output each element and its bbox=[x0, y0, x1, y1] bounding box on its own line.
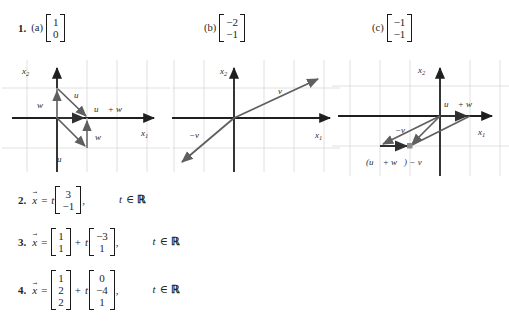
matrix-entry: 1 bbox=[58, 272, 64, 284]
vector-arrows bbox=[182, 79, 318, 162]
matrix-entry: 0 bbox=[53, 28, 59, 40]
equation-4-point-matrix: 1 2 2 bbox=[51, 270, 71, 310]
problem-1-row: 1. (a) 1 0 (b) −2 −1 bbox=[0, 0, 509, 56]
problem-1-item-b: (b) −2 −1 bbox=[204, 14, 245, 42]
matrix-entry: 1 bbox=[99, 296, 105, 308]
bracket-right bbox=[110, 228, 115, 256]
answer-page: 1. (a) 1 0 (b) −2 −1 bbox=[0, 0, 509, 336]
equation-2-number: 2. bbox=[18, 194, 26, 206]
element-of-sign: ∈ bbox=[126, 193, 134, 205]
graph-a-label-w1: w⃗ bbox=[37, 100, 50, 110]
equation-2-scalar: t bbox=[51, 194, 54, 206]
problem-1-item-a: 1. (a) 1 0 bbox=[18, 14, 65, 42]
matrix-entry: 2 bbox=[58, 296, 64, 308]
matrix-entry: −3 bbox=[96, 230, 108, 242]
bracket-right bbox=[407, 14, 412, 42]
condition-variable: t bbox=[153, 235, 156, 247]
equation-3-lhs: x bbox=[32, 235, 37, 248]
problem-1-item-c: (c) −1 −1 bbox=[372, 14, 412, 42]
graph-a-y-axis-label: x2 bbox=[21, 66, 30, 77]
condition-variable: t bbox=[153, 283, 156, 295]
equation-3: 3. x = 1 1 + t −3 1 , t∈ℝ bbox=[18, 228, 180, 256]
equation-3-condition: t∈ℝ bbox=[153, 235, 180, 248]
problem-1-label-b: (b) bbox=[204, 22, 216, 33]
equation-4-scalar: t bbox=[85, 284, 88, 296]
comma: , bbox=[116, 236, 119, 248]
graph-c-canvas: x2 x1 u⃗ + w⃗ −v⃗ (u⃗ + w⃗) − v⃗ bbox=[332, 60, 509, 176]
graph-c-x-axis-label: x1 bbox=[477, 127, 485, 138]
problem-1-number: 1. bbox=[18, 22, 26, 34]
graph-b-x-axis-label: x1 bbox=[314, 130, 322, 141]
graph-c-label-u-plus-w: u⃗ + w⃗ bbox=[444, 99, 479, 109]
equation-4-lhs: x bbox=[32, 283, 37, 296]
condition-variable: t bbox=[119, 193, 122, 205]
equation-3-direction-matrix: −3 1 bbox=[89, 228, 115, 256]
graph-a-canvas: x2 x1 w⃗ u⃗ u⃗ + w⃗ w⃗ u⃗ bbox=[2, 60, 170, 172]
graph-a-label-w2: w⃗ bbox=[95, 132, 108, 142]
matrix-entry: −1 bbox=[394, 16, 406, 28]
real-numbers-symbol: ℝ bbox=[137, 193, 146, 205]
matrix-entry: 1 bbox=[58, 242, 64, 254]
element-of-sign: ∈ bbox=[160, 283, 168, 295]
graph-a-label-u-plus-w: u⃗ + w⃗ bbox=[94, 104, 129, 114]
graph-b-label-v: v⃗ bbox=[278, 86, 289, 96]
matrix-1b: −2 −1 bbox=[219, 14, 245, 42]
bracket-right bbox=[66, 228, 71, 256]
graph-b-canvas: x2 x1 v⃗ −v⃗ bbox=[172, 60, 340, 172]
equals-sign: = bbox=[41, 194, 47, 206]
bracket-right bbox=[66, 270, 71, 310]
comma: , bbox=[116, 284, 119, 296]
bracket-right bbox=[110, 270, 115, 310]
equation-4-number: 4. bbox=[18, 284, 26, 296]
equation-3-scalar: t bbox=[85, 236, 88, 248]
graph-b: x2 x1 v⃗ −v⃗ bbox=[172, 60, 340, 172]
equation-4-condition: t∈ℝ bbox=[153, 283, 180, 296]
graph-b-label-neg-v: −v⃗ bbox=[189, 130, 206, 140]
graph-c-label-resultant: (u⃗ + w⃗) − v⃗ bbox=[366, 157, 429, 167]
plus-sign: + bbox=[75, 236, 81, 248]
equation-2-condition: t∈ℝ bbox=[119, 193, 146, 206]
graph-a: x2 x1 w⃗ u⃗ u⃗ + w⃗ w⃗ u⃗ bbox=[2, 60, 170, 172]
graph-a-label-u1: u⃗ bbox=[74, 90, 86, 100]
vector-arrows bbox=[380, 116, 470, 146]
equals-sign: = bbox=[41, 236, 47, 248]
vector-endpoints bbox=[407, 143, 413, 149]
problem-1-label-a: (a) bbox=[31, 22, 43, 33]
equation-3-number: 3. bbox=[18, 236, 26, 248]
graph-b-y-axis-label: x2 bbox=[219, 66, 228, 77]
plus-sign: + bbox=[75, 284, 81, 296]
matrix-entry: −1 bbox=[62, 200, 74, 212]
grid-lines bbox=[172, 60, 340, 172]
matrix-entry: −1 bbox=[394, 28, 406, 40]
axes bbox=[12, 68, 154, 172]
graph-a-label-u2: u⃗ bbox=[57, 154, 69, 164]
equation-2: 2. x = t 3 −1 , t∈ℝ bbox=[18, 186, 146, 214]
real-numbers-symbol: ℝ bbox=[171, 235, 180, 247]
equation-2-lhs: x bbox=[32, 193, 37, 206]
matrix-entry: −1 bbox=[226, 28, 238, 40]
bracket-right bbox=[76, 186, 81, 214]
equation-4-direction-matrix: 0 −4 1 bbox=[89, 270, 115, 310]
graph-c-label-neg-v: −v⃗ bbox=[395, 125, 412, 135]
equation-2-direction-matrix: 3 −1 bbox=[55, 186, 81, 214]
equation-4: 4. x = 1 2 2 + t 0 −4 1 , t∈ℝ bbox=[18, 270, 180, 310]
real-numbers-symbol: ℝ bbox=[171, 283, 180, 295]
equation-3-point-matrix: 1 1 bbox=[51, 228, 71, 256]
matrix-1a: 1 0 bbox=[46, 14, 66, 42]
problem-1-label-c: (c) bbox=[372, 22, 384, 33]
comma: , bbox=[82, 194, 85, 206]
matrix-entry: 1 bbox=[53, 16, 59, 28]
matrix-entry: 1 bbox=[99, 242, 105, 254]
matrix-entry: 0 bbox=[99, 272, 105, 284]
matrix-entry: −4 bbox=[96, 284, 108, 296]
matrix-entry: 2 bbox=[58, 284, 64, 296]
graph-c: x2 x1 u⃗ + w⃗ −v⃗ (u⃗ + w⃗) − v⃗ bbox=[332, 60, 509, 176]
element-of-sign: ∈ bbox=[160, 235, 168, 247]
graph-c-y-axis-label: x2 bbox=[417, 65, 426, 76]
matrix-entry: −2 bbox=[226, 16, 238, 28]
matrix-entry: 3 bbox=[66, 188, 72, 200]
matrix-entry: 1 bbox=[58, 230, 64, 242]
bracket-right bbox=[240, 14, 245, 42]
matrix-1c: −1 −1 bbox=[387, 14, 413, 42]
equals-sign: = bbox=[41, 284, 47, 296]
